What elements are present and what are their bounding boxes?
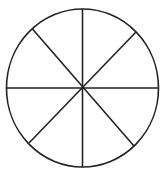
divided-circle-diagram: Circle divided into 8 equal sectors by 4… (0, 0, 166, 176)
circle-svg (0, 0, 166, 176)
